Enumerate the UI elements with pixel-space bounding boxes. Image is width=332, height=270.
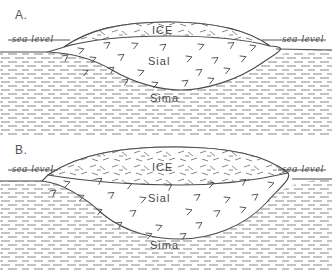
isostasy-figure: A. sea level sea level ICE Sial Sima — [0, 0, 332, 270]
sea-level-label-right-a: sea level — [282, 33, 324, 44]
sial-label-b: Sial — [148, 192, 170, 204]
sea-level-label-left-b: sea level — [12, 163, 54, 174]
panel-label-b: B. — [15, 143, 27, 157]
ice-label-a: ICE — [152, 24, 173, 36]
sea-level-label-right-b: sea level — [282, 163, 324, 174]
panel-label-a: A. — [15, 8, 27, 22]
sea-level-label-left-a: sea level — [12, 33, 54, 44]
panel-b: B. sea level sea level ICE Sial Sima — [0, 135, 332, 270]
sima-label-a: Sima — [150, 92, 179, 104]
panel-a-drawing — [0, 0, 332, 135]
sima-surface-right-a — [276, 49, 332, 50]
panel-a: A. sea level sea level ICE Sial Sima — [0, 0, 332, 135]
ice-label-b: ICE — [152, 161, 173, 173]
sial-label-a: Sial — [148, 55, 170, 67]
sima-label-b: Sima — [150, 239, 179, 251]
